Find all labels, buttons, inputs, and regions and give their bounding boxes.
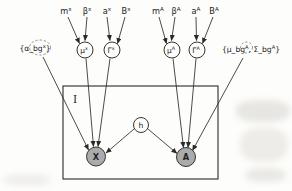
param-m-A: mA xyxy=(152,6,164,16)
node-A-label: A xyxy=(183,152,190,162)
arrow-h-to-X xyxy=(106,129,134,153)
diagram-svg: I mx βx ax Bx mA βA aA BA {α_bgx} xyxy=(0,0,292,191)
arrow-aA-to-gammaA xyxy=(196,17,197,41)
param-B-A: BA xyxy=(209,6,219,16)
arrow-betax-to-mux xyxy=(85,17,87,41)
arrow-mx-to-mux xyxy=(68,17,80,44)
label-alpha-bg-x: {α_bgx} xyxy=(19,43,50,53)
node-X-label: X xyxy=(93,152,100,162)
param-beta-A: βA xyxy=(171,6,180,16)
param-beta-x: βx xyxy=(83,6,92,16)
arrow-muA-to-A xyxy=(173,59,184,148)
arrow-gammax-to-X xyxy=(98,59,110,147)
label-mubg-sigmabg-A: {μ_bgA, Σ_bgA} xyxy=(222,44,280,54)
graphical-model-figure: I mx βx ax Bx mA βA aA BA {α_bgx} xyxy=(0,0,292,191)
arrow-gammaA-to-A xyxy=(188,59,196,148)
arrow-h-to-A xyxy=(148,129,177,154)
param-m-x: mx xyxy=(60,6,72,16)
arrow-mA-to-muA xyxy=(159,17,167,44)
arrow-Bx-to-gammax xyxy=(118,17,126,44)
plate-label: I xyxy=(73,93,77,105)
arrow-mux-to-X xyxy=(86,59,94,147)
arrow-BA-to-gammaA xyxy=(203,17,214,44)
param-B-x: Bx xyxy=(122,6,132,16)
arrow-betaA-to-muA xyxy=(172,17,176,41)
node-h-label: h xyxy=(139,121,144,130)
param-a-x: ax xyxy=(103,6,112,16)
param-a-A: aA xyxy=(192,6,201,16)
arrow-alphabg-to-X xyxy=(43,57,89,150)
arrow-ax-to-gammax xyxy=(107,17,110,41)
